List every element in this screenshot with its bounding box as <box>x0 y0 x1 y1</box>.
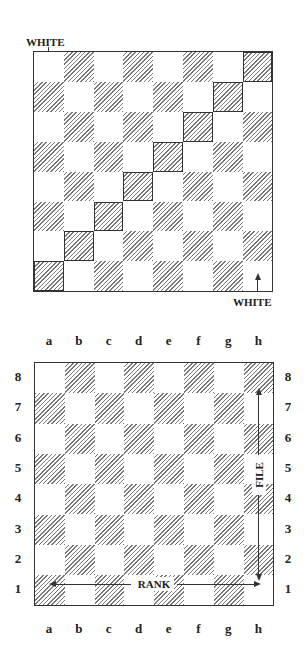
arrow-up-icon <box>255 273 261 280</box>
square-b6 <box>64 112 94 142</box>
rank-label-8: 8 <box>278 369 298 385</box>
rank-label-4: 4 <box>8 490 28 506</box>
square-e1 <box>153 261 183 291</box>
square-g8 <box>213 52 243 82</box>
arrow-down-icon <box>256 574 262 581</box>
square-a5 <box>35 454 65 484</box>
square-f2 <box>183 231 213 261</box>
square-e4 <box>153 172 183 202</box>
file-label-f: f <box>188 621 208 637</box>
square-f4 <box>184 484 214 514</box>
square-b6 <box>65 424 95 454</box>
square-f7 <box>183 82 213 112</box>
square-c5 <box>94 142 124 172</box>
square-h8 <box>243 52 273 82</box>
square-b3 <box>64 202 94 232</box>
square-c1 <box>94 261 124 291</box>
square-h7 <box>243 82 273 112</box>
square-f1 <box>184 575 214 605</box>
square-a4 <box>34 172 64 202</box>
file-label-c: c <box>99 333 119 349</box>
square-b4 <box>65 484 95 514</box>
white-arrow-bottom-right-shaft <box>257 279 258 292</box>
file-label-h: h <box>248 333 268 349</box>
square-d1 <box>123 261 153 291</box>
rank-label: RANK <box>134 577 174 591</box>
file-label-a: a <box>39 621 59 637</box>
square-h3 <box>243 202 273 232</box>
square-g3 <box>214 515 244 545</box>
square-g1 <box>213 261 243 291</box>
square-h5 <box>243 142 273 172</box>
rank-label-5: 5 <box>278 460 298 476</box>
square-b2 <box>65 545 95 575</box>
rank-arrow-right-shaft <box>177 584 255 585</box>
square-h4 <box>243 172 273 202</box>
square-c8 <box>95 363 125 393</box>
square-b5 <box>64 142 94 172</box>
square-f2 <box>184 545 214 575</box>
square-d5 <box>124 454 154 484</box>
square-b8 <box>65 363 95 393</box>
square-a1 <box>34 261 64 291</box>
rank-label-2: 2 <box>278 551 298 567</box>
white-label-bottom-right: WHITE <box>233 296 272 308</box>
square-f7 <box>184 393 214 423</box>
square-g4 <box>214 484 244 514</box>
square-b3 <box>65 515 95 545</box>
square-a4 <box>35 484 65 514</box>
file-label-e: e <box>159 333 179 349</box>
square-g6 <box>213 112 243 142</box>
square-e6 <box>153 112 183 142</box>
file-label-b: b <box>69 333 89 349</box>
square-a3 <box>35 515 65 545</box>
chessboard-top <box>33 51 273 292</box>
square-f5 <box>184 454 214 484</box>
square-e5 <box>154 454 184 484</box>
square-g6 <box>214 424 244 454</box>
file-label-d: d <box>129 333 149 349</box>
square-f8 <box>183 52 213 82</box>
square-c6 <box>94 112 124 142</box>
chessboard-bottom: RANK FILE <box>34 362 274 606</box>
square-a2 <box>34 231 64 261</box>
square-a3 <box>34 202 64 232</box>
file-arrow-bottom-shaft <box>258 495 259 575</box>
rank-label-6: 6 <box>8 430 28 446</box>
square-g2 <box>213 231 243 261</box>
square-g7 <box>213 82 243 112</box>
square-g3 <box>213 202 243 232</box>
square-a1 <box>35 575 65 605</box>
rank-label-2: 2 <box>8 551 28 567</box>
rank-label-3: 3 <box>8 521 28 537</box>
square-e7 <box>153 82 183 112</box>
square-f1 <box>183 261 213 291</box>
square-d5 <box>123 142 153 172</box>
square-a7 <box>35 393 65 423</box>
rank-label-4: 4 <box>278 490 298 506</box>
file-label-h: h <box>248 621 268 637</box>
square-g4 <box>213 172 243 202</box>
white-label-top-left: WHITE <box>26 36 65 48</box>
square-a5 <box>34 142 64 172</box>
square-f5 <box>183 142 213 172</box>
square-c7 <box>95 393 125 423</box>
square-f8 <box>184 363 214 393</box>
square-e8 <box>153 52 183 82</box>
square-g5 <box>213 142 243 172</box>
square-a8 <box>35 363 65 393</box>
square-c3 <box>95 515 125 545</box>
file-arrow-top-shaft <box>258 394 259 461</box>
square-d4 <box>124 484 154 514</box>
square-c7 <box>94 82 124 112</box>
square-a2 <box>35 545 65 575</box>
square-a8 <box>34 52 64 82</box>
file-label-a: a <box>39 333 59 349</box>
square-c4 <box>94 172 124 202</box>
rank-label-7: 7 <box>8 399 28 415</box>
square-d3 <box>123 202 153 232</box>
square-g1 <box>214 575 244 605</box>
square-d6 <box>124 424 154 454</box>
rank-label-1: 1 <box>8 581 28 597</box>
square-g2 <box>214 545 244 575</box>
